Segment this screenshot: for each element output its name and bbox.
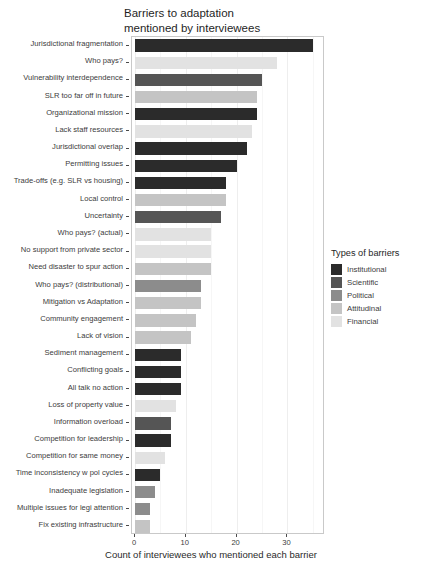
bar-row xyxy=(132,469,323,481)
y-tick-label: Fix existing infrastructure xyxy=(39,521,123,529)
bar xyxy=(135,520,150,532)
bar-row xyxy=(132,520,323,532)
bar-row xyxy=(132,452,323,464)
legend-item: Institutional xyxy=(331,263,419,276)
bar-row xyxy=(132,194,323,206)
bar xyxy=(135,280,201,292)
bar-row xyxy=(132,349,323,361)
legend-item: Scientific xyxy=(331,276,419,289)
y-tick-label: All talk no action xyxy=(68,384,123,392)
bar xyxy=(135,125,252,137)
x-axis-title: Count of interviewees who mentioned each… xyxy=(0,549,422,560)
y-axis: Jurisdictional fragmentationWho pays?Vul… xyxy=(0,36,131,534)
y-tick-mark xyxy=(126,302,129,303)
bar xyxy=(135,108,257,120)
bar-row xyxy=(132,503,323,515)
bar-chart: Barriers to adaptation mentioned by inte… xyxy=(0,0,422,572)
legend-swatch xyxy=(331,264,342,275)
legend-item: Attitudinal xyxy=(331,302,419,315)
y-tick-mark xyxy=(126,62,129,63)
bar xyxy=(135,331,191,343)
y-tick-label: Jurisdictional fragmentation xyxy=(31,40,123,48)
bar-row xyxy=(132,39,323,51)
x-tick-label: 30 xyxy=(282,538,290,547)
x-tick-label: 0 xyxy=(132,538,136,547)
y-tick-mark xyxy=(126,491,129,492)
bar xyxy=(135,400,176,412)
bar-row xyxy=(132,160,323,172)
chart-title: Barriers to adaptation mentioned by inte… xyxy=(124,6,364,35)
y-tick-label: Local control xyxy=(80,195,123,203)
bar-row xyxy=(132,280,323,292)
bar xyxy=(135,160,237,172)
bar xyxy=(135,297,201,309)
bar xyxy=(135,74,262,86)
y-tick-mark xyxy=(126,457,129,458)
y-tick-label: Jurisdictional overlap xyxy=(52,143,123,151)
y-tick-mark xyxy=(126,251,129,252)
plot-panel xyxy=(131,36,324,534)
bar-row xyxy=(132,400,323,412)
y-tick-label: Time inconsistency w pol cycles xyxy=(16,469,123,477)
bar xyxy=(135,452,165,464)
y-tick-label: Trade-offs (e.g. SLR vs housing) xyxy=(14,177,123,185)
bar xyxy=(135,383,181,395)
bars-layer xyxy=(132,37,323,533)
x-tick-label: 20 xyxy=(231,538,239,547)
y-tick-mark xyxy=(126,45,129,46)
bar xyxy=(135,142,247,154)
bar-row xyxy=(132,125,323,137)
legend-label: Scientific xyxy=(347,278,378,287)
bar xyxy=(135,263,211,275)
y-tick-label: Information overload xyxy=(54,418,123,426)
bar xyxy=(135,57,277,69)
y-tick-mark xyxy=(126,525,129,526)
bar xyxy=(135,177,226,189)
legend-swatch xyxy=(331,303,342,314)
y-tick-mark xyxy=(126,474,129,475)
bar-row xyxy=(132,74,323,86)
y-tick-label: Multiple issues for legi attention xyxy=(17,504,123,512)
y-tick-label: Loss of property value xyxy=(48,401,123,409)
bar xyxy=(135,39,313,51)
legend-item: Political xyxy=(331,289,419,302)
bar xyxy=(135,417,171,429)
bar xyxy=(135,366,181,378)
legend-swatch xyxy=(331,316,342,327)
bar-row xyxy=(132,383,323,395)
bar-row xyxy=(132,263,323,275)
y-tick-mark xyxy=(126,440,129,441)
y-tick-label: Competition for same money xyxy=(26,452,123,460)
y-tick-mark xyxy=(126,182,129,183)
y-tick-mark xyxy=(126,148,129,149)
bar-row xyxy=(132,108,323,120)
bar xyxy=(135,194,226,206)
bar xyxy=(135,245,211,257)
bar-row xyxy=(132,91,323,103)
y-tick-mark xyxy=(126,354,129,355)
x-tick-mark xyxy=(134,534,135,537)
y-tick-label: Permitting issues xyxy=(65,160,123,168)
bar-row xyxy=(132,434,323,446)
x-tick-label: 10 xyxy=(181,538,189,547)
y-tick-mark xyxy=(126,216,129,217)
y-tick-mark xyxy=(126,285,129,286)
bar-row xyxy=(132,245,323,257)
y-tick-label: Community engagement xyxy=(40,315,123,323)
legend-title: Types of barriers xyxy=(331,248,419,258)
y-tick-label: Lack of vision xyxy=(77,332,123,340)
bar xyxy=(135,228,211,240)
y-tick-mark xyxy=(126,388,129,389)
y-tick-mark xyxy=(126,319,129,320)
legend-label: Institutional xyxy=(347,265,386,274)
bar-row xyxy=(132,211,323,223)
legend-swatch xyxy=(331,290,342,301)
bar-row xyxy=(132,486,323,498)
x-tick-mark xyxy=(286,534,287,537)
legend-label: Attitudinal xyxy=(347,304,381,313)
y-tick-mark xyxy=(126,508,129,509)
y-tick-label: Sediment management xyxy=(44,349,123,357)
y-tick-label: Who pays? (distributional) xyxy=(35,281,123,289)
x-tick-mark xyxy=(185,534,186,537)
y-tick-label: Uncertainty xyxy=(85,212,123,220)
